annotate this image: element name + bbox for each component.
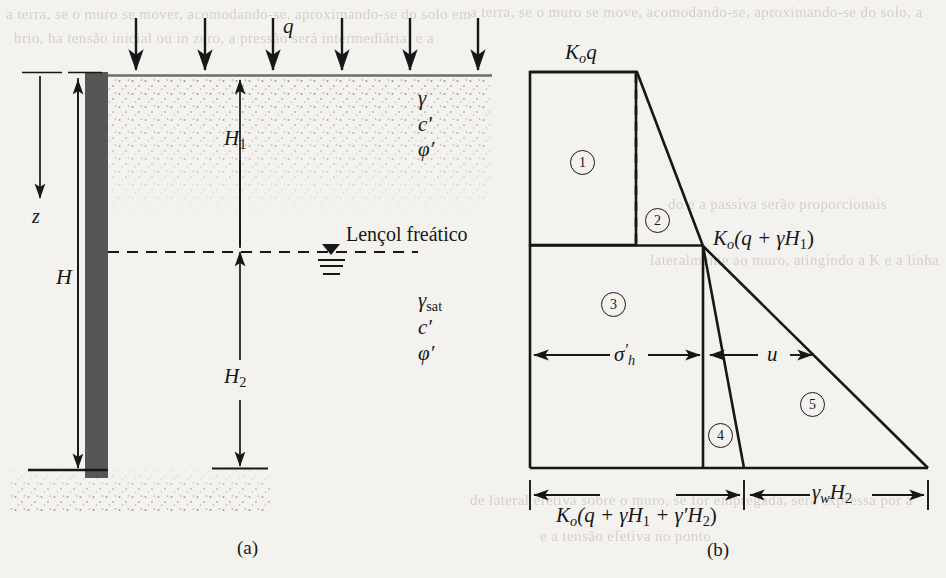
be-sub2: 1 bbox=[643, 513, 650, 529]
panel-b-caption: (b) bbox=[707, 540, 729, 559]
upper-gamma: γ bbox=[418, 86, 434, 112]
region-number-3: 3 bbox=[601, 292, 626, 317]
upper-cprime: c′ bbox=[418, 112, 434, 138]
panel-a-caption: (a) bbox=[237, 538, 258, 557]
mid-K: K bbox=[713, 226, 727, 250]
upper-c-prime: ′ bbox=[427, 112, 432, 136]
lower-phi-prime: ′ bbox=[430, 341, 435, 365]
depth-axis-label-z: z bbox=[32, 206, 40, 226]
h1-sub: 1 bbox=[239, 136, 246, 152]
surcharge-label-q: q bbox=[283, 16, 294, 37]
lower-soil-properties: γsat c′ φ′ bbox=[418, 288, 442, 367]
lower-cprime: c′ bbox=[418, 315, 442, 341]
h2-sub: 2 bbox=[239, 374, 246, 390]
be-K: K bbox=[556, 503, 570, 527]
effective-stress-label: σ′h bbox=[614, 342, 635, 367]
mid-pressure-label: Ko(q + γH1) bbox=[713, 228, 814, 251]
mid-tail: ) bbox=[807, 226, 814, 250]
bw-sub2: 2 bbox=[845, 490, 852, 506]
layer2-height-label-H2: H2 bbox=[224, 366, 246, 389]
region-2-text: 2 bbox=[654, 213, 661, 229]
sigma-sub: h bbox=[628, 352, 635, 368]
upper-soil-properties: γ c′ φ′ bbox=[418, 86, 434, 163]
retaining-wall bbox=[85, 72, 108, 478]
be-rest: (q + γH bbox=[577, 503, 643, 527]
region-4-text: 4 bbox=[717, 428, 724, 444]
upper-phi-symbol: φ bbox=[418, 137, 430, 161]
depth-axis-z bbox=[22, 73, 62, 199]
lower-c-symbol: c bbox=[418, 315, 427, 339]
region-number-2: 2 bbox=[645, 208, 670, 233]
total-height-label-H: H bbox=[56, 266, 72, 288]
surcharge-load-arrows bbox=[136, 18, 478, 70]
soil-texture-base bbox=[10, 466, 270, 512]
h2-base: H bbox=[224, 364, 239, 388]
region-3-text: 3 bbox=[610, 297, 617, 313]
water-table-label: Lençol freático bbox=[346, 224, 468, 244]
upper-phi-prime: ′ bbox=[430, 137, 435, 161]
region-5-text: 5 bbox=[809, 397, 816, 413]
bottom-effective-label: Ko(q + γH1 + γ′H2) bbox=[556, 505, 717, 528]
bottom-water-label: γwH2 bbox=[812, 482, 852, 505]
bw-sub: w bbox=[820, 490, 830, 506]
upper-c-symbol: c bbox=[418, 112, 427, 136]
region-number-4: 4 bbox=[708, 423, 733, 448]
h1-base: H bbox=[224, 126, 239, 150]
ko-K: K bbox=[565, 40, 579, 64]
water-table-symbol bbox=[318, 244, 345, 274]
top-pressure-label: Koq bbox=[565, 42, 597, 65]
region-1-text: 1 bbox=[579, 155, 586, 171]
region-number-1: 1 bbox=[570, 150, 595, 175]
ko-q: q bbox=[586, 40, 597, 64]
sigma-symbol: σ bbox=[614, 342, 624, 366]
figure-canvas bbox=[0, 0, 946, 578]
bw-H: H bbox=[830, 480, 845, 504]
lower-phi-symbol: φ bbox=[418, 341, 430, 365]
pore-pressure-label: u bbox=[767, 344, 778, 365]
mid-rest: (q + γH bbox=[734, 226, 800, 250]
be-tail: ) bbox=[710, 503, 717, 527]
be-rest2: + γ′H bbox=[650, 503, 703, 527]
layer2-height-dimension-H2 bbox=[212, 252, 268, 469]
upper-phiprime: φ′ bbox=[418, 137, 434, 163]
region-number-5: 5 bbox=[800, 392, 825, 417]
lower-gammasat: γsat bbox=[418, 288, 442, 315]
lower-gamma-sub: sat bbox=[426, 298, 442, 314]
lower-c-prime: ′ bbox=[427, 315, 432, 339]
mid-sub2: 1 bbox=[800, 236, 807, 252]
layer1-height-label-H1: H1 bbox=[224, 128, 246, 151]
upper-gamma-symbol: γ bbox=[418, 86, 426, 110]
be-sub3: 2 bbox=[703, 513, 710, 529]
lower-phiprime: φ′ bbox=[418, 341, 442, 367]
